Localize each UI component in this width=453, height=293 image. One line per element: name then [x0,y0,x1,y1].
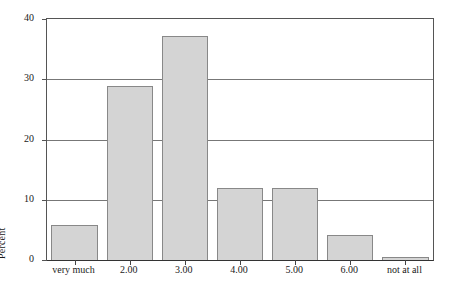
x-axis-tick-label: 2.00 [120,264,138,276]
y-tick-mark [42,260,47,261]
bar [217,188,263,260]
bar [162,36,208,260]
x-axis-tick-label: very much [52,264,95,276]
x-axis-tick-labels: very much2.003.004.005.006.00not at all [46,264,432,284]
x-axis-tick-label: 4.00 [230,264,248,276]
y-axis-tick-label: 20 [24,134,34,144]
bars-layer [47,19,433,260]
bar [382,257,428,260]
x-axis-tick-label: 6.00 [341,264,359,276]
x-axis-tick-label: not at all [387,264,422,276]
y-axis-tick-label: 10 [24,194,34,204]
x-axis-tick-label: 3.00 [175,264,193,276]
bar-chart: Percent 010203040 very much2.003.004.005… [0,0,453,293]
y-axis-tick-label: 40 [24,13,34,23]
x-axis-tick-label: 5.00 [285,264,303,276]
bar [51,225,97,260]
y-axis-tick-label: 0 [29,254,34,264]
bar [107,86,153,260]
bar [272,188,318,260]
plot-area [46,18,434,261]
y-axis-tick-labels: 010203040 [0,0,42,293]
bar [327,235,373,260]
y-axis-tick-label: 30 [24,73,34,83]
